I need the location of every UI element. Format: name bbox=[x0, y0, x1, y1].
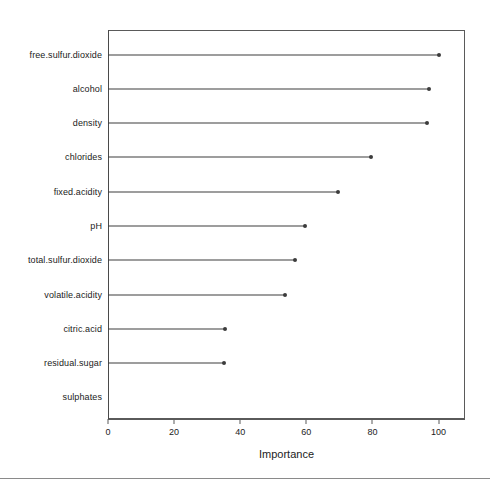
y-axis-label: pH bbox=[0, 221, 102, 231]
x-axis-tick bbox=[174, 419, 175, 424]
x-axis-tick bbox=[306, 419, 307, 424]
x-axis-tick bbox=[108, 419, 109, 424]
x-axis-line bbox=[108, 419, 465, 420]
x-axis-tick-label: 100 bbox=[431, 427, 446, 438]
y-axis-label: alcohol bbox=[0, 84, 102, 94]
x-axis-tick-label: 40 bbox=[235, 427, 245, 438]
y-axis-label: citric.acid bbox=[0, 324, 102, 334]
x-axis-tick bbox=[372, 419, 373, 424]
x-axis-tick bbox=[240, 419, 241, 424]
x-axis-tick-label: 80 bbox=[367, 427, 377, 438]
x-axis-tick-label: 60 bbox=[301, 427, 311, 438]
x-axis-tick bbox=[438, 419, 439, 424]
y-axis-label: sulphates bbox=[0, 392, 102, 402]
x-axis-tick-label: 0 bbox=[105, 427, 110, 438]
y-axis-label: chlorides bbox=[0, 152, 102, 162]
zero-baseline bbox=[108, 30, 109, 419]
y-axis-label: density bbox=[0, 118, 102, 128]
y-axis-label: volatile.acidity bbox=[0, 290, 102, 300]
x-axis-title: Importance bbox=[108, 448, 465, 461]
plot-panel bbox=[108, 30, 465, 419]
y-axis-category-labels: free.sulfur.dioxidealcoholdensitychlorid… bbox=[0, 30, 102, 419]
y-axis-label: fixed.acidity bbox=[0, 187, 102, 197]
y-axis-label: free.sulfur.dioxide bbox=[0, 50, 102, 60]
x-axis-tick-label: 20 bbox=[169, 427, 179, 438]
y-axis-label: total.sulfur.dioxide bbox=[0, 255, 102, 265]
bottom-separator-rule bbox=[0, 478, 490, 479]
y-axis-label: residual.sugar bbox=[0, 358, 102, 368]
variable-importance-chart: free.sulfur.dioxidealcoholdensitychlorid… bbox=[0, 0, 490, 488]
